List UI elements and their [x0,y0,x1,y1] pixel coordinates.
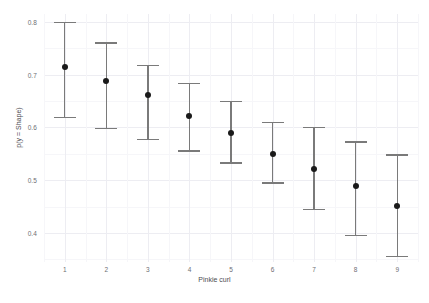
y-axis-tick-label: 0.7 [3,71,37,78]
error-bar-cap-upper [178,83,200,84]
error-bar-cap-lower [178,150,200,151]
x-axis-tick-label: 7 [299,266,329,273]
data-point-marker [228,130,234,136]
error-bar-cap-upper [262,122,284,123]
gridline-x-minor [252,14,253,262]
chart-figure: p(y = Shape) Pinkie curl 0.80.70.60.50.4… [0,0,429,303]
y-axis-tick-label: 0.4 [3,229,37,236]
error-bar-cap-lower [303,209,325,210]
gridline-x-minor [376,14,377,262]
error-bar-cap-lower [386,256,408,257]
error-bar-cap-lower [345,235,367,236]
gridline-x-minor [293,14,294,262]
error-bar-line [106,42,107,127]
gridline-x-minor [418,14,419,262]
gridline-x-minor [210,14,211,262]
error-bar-cap-upper [95,42,117,43]
data-point-marker [394,203,400,209]
gridline-x-minor [169,14,170,262]
plot-panel [44,14,418,262]
gridline-x-minor [127,14,128,262]
y-axis-tick-label: 0.8 [3,18,37,25]
data-point-marker [186,113,192,119]
error-bar-cap-lower [137,139,159,140]
error-bar-cap-upper [386,154,408,155]
x-axis-tick-label: 8 [341,266,371,273]
x-axis-tick-label: 2 [91,266,121,273]
gridline-x-minor [86,14,87,262]
data-point-marker [62,64,68,70]
data-point-marker [353,183,359,189]
x-axis-tick-label: 5 [216,266,246,273]
error-bar-cap-upper [137,65,159,66]
x-axis-tick-label: 4 [174,266,204,273]
x-axis-tick-label: 9 [382,266,412,273]
x-axis-tick-label: 6 [258,266,288,273]
y-axis-tick-label: 0.6 [3,124,37,131]
data-point-marker [311,166,317,172]
error-bar-cap-lower [262,182,284,183]
x-axis-tick-label: 1 [50,266,80,273]
data-point-marker [145,92,151,98]
error-bar-cap-lower [220,162,242,163]
error-bar-cap-upper [345,141,367,142]
error-bar-cap-lower [95,128,117,129]
error-bar-cap-upper [303,127,325,128]
data-point-marker [103,78,109,84]
x-axis-tick-label: 3 [133,266,163,273]
error-bar-line [147,65,148,139]
gridline-x-minor [44,14,45,262]
gridline-x-minor [335,14,336,262]
error-bar-cap-lower [54,117,76,118]
error-bar-cap-upper [220,101,242,102]
error-bar-cap-upper [54,22,76,23]
y-axis-tick-label: 0.5 [3,177,37,184]
data-point-marker [270,151,276,157]
x-axis-label: Pinkie curl [0,276,429,283]
